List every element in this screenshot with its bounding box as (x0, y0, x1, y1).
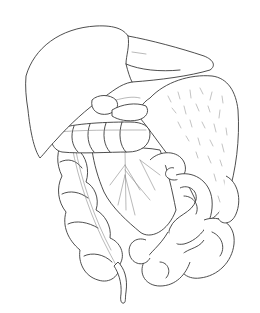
anatomy-illustration (0, 0, 260, 313)
appendix (114, 262, 127, 303)
abdominal-organs-drawing (0, 0, 260, 313)
